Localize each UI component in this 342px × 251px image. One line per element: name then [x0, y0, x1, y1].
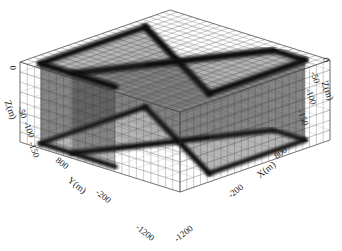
z-left-tick-0: 0	[8, 66, 18, 71]
mesh-3d-plot	[0, 0, 342, 251]
